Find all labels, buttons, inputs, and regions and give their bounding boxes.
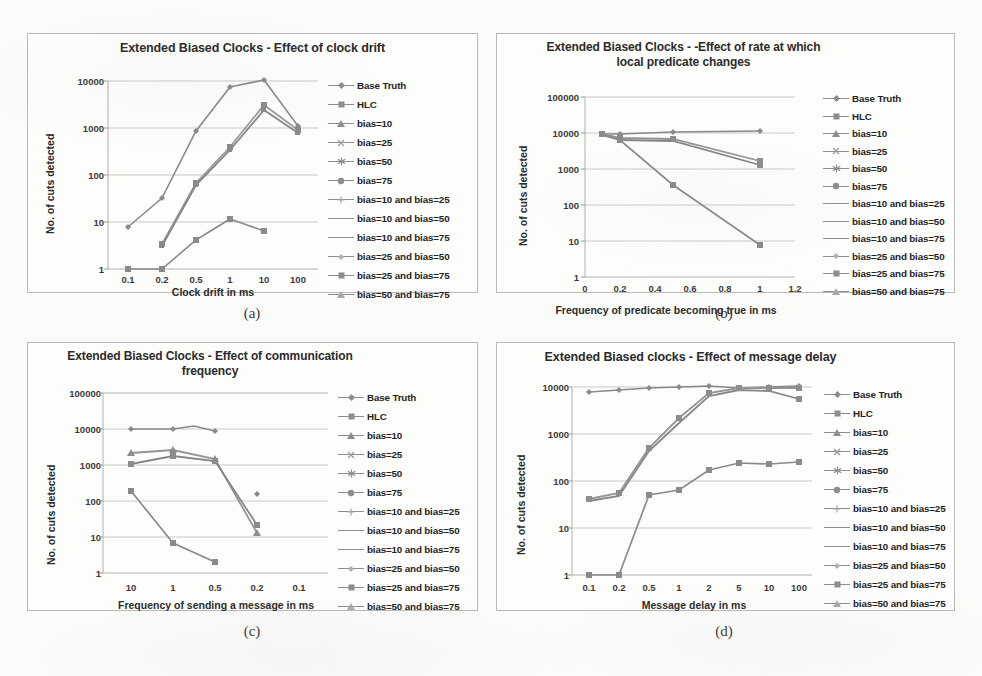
legend-item[interactable]: bias=10 — [824, 423, 945, 442]
legend-item[interactable]: bias=25 and bias=50 — [823, 248, 944, 266]
legend-item[interactable]: bias=10 — [823, 125, 944, 143]
legend-item[interactable]: HLC — [823, 108, 944, 126]
legend-item[interactable]: bias=10 and bias=75 — [328, 228, 449, 247]
legend-item[interactable]: HLC — [824, 404, 945, 423]
legend-item[interactable]: bias=10 and bias=25 — [823, 195, 944, 213]
legend-label: bias=25 and bias=75 — [853, 579, 945, 590]
legend-item[interactable]: bias=75 — [824, 480, 945, 499]
triangle-marker-icon — [824, 598, 850, 610]
x-axis-title-b: Frequency of predicate becoming true in … — [511, 304, 821, 316]
asterisk-marker-icon — [824, 465, 850, 477]
legend-item[interactable]: bias=25 and bias=75 — [328, 266, 449, 285]
legend-label: bias=25 — [853, 446, 888, 457]
triangle-marker-icon — [328, 118, 354, 130]
triangle-marker-icon — [328, 289, 354, 301]
diamond-small-marker-icon — [824, 560, 850, 572]
line-marker-icon — [823, 233, 849, 245]
legend-item[interactable]: Base Truth — [328, 76, 449, 95]
legend-label: bias=10 — [367, 430, 402, 441]
legend-item[interactable]: bias=50 and bias=75 — [338, 597, 459, 616]
legend-label: bias=10 and bias=25 — [357, 194, 449, 205]
legend-item[interactable]: bias=25 — [328, 133, 449, 152]
legend-item[interactable]: bias=10 and bias=25 — [328, 190, 449, 209]
diamond-small-marker-icon — [338, 563, 364, 575]
legend-item[interactable]: bias=75 — [328, 171, 449, 190]
legend-label: bias=50 and bias=75 — [853, 598, 945, 609]
legend-item[interactable]: HLC — [338, 407, 459, 426]
legend-item[interactable]: bias=10 and bias=50 — [328, 209, 449, 228]
legend-label: bias=10 and bias=25 — [852, 198, 944, 209]
triangle-marker-icon — [338, 601, 364, 613]
legend-item[interactable]: bias=25 and bias=75 — [823, 265, 944, 283]
legend-item[interactable]: bias=25 — [823, 143, 944, 161]
legend-item[interactable]: bias=10 and bias=50 — [338, 521, 459, 540]
legend-label: Base Truth — [853, 389, 902, 400]
legend-item[interactable]: bias=10 and bias=50 — [824, 518, 945, 537]
legend-label: bias=25 and bias=75 — [852, 268, 944, 279]
legend-item[interactable]: bias=50 and bias=75 — [823, 283, 944, 301]
legend-label: bias=10 and bias=75 — [853, 541, 945, 552]
square-marker-icon — [338, 582, 364, 594]
legend-item[interactable]: Base Truth — [823, 90, 944, 108]
legend-label: bias=10 — [852, 128, 887, 139]
asterisk-marker-icon — [328, 156, 354, 168]
legend-item[interactable]: bias=50 — [328, 152, 449, 171]
legend-item[interactable]: bias=10 and bias=50 — [823, 213, 944, 231]
diamond-marker-icon — [338, 392, 364, 404]
cross-marker-icon — [824, 446, 850, 458]
cross-marker-icon — [338, 449, 364, 461]
plus-marker-icon — [328, 194, 354, 206]
asterisk-marker-icon — [823, 163, 849, 175]
triangle-marker-icon — [823, 128, 849, 140]
circle-marker-icon — [824, 484, 850, 496]
legend-item[interactable]: Base Truth — [338, 388, 459, 407]
legend-item[interactable]: bias=10 — [338, 426, 459, 445]
legend-label: bias=50 — [367, 468, 402, 479]
legend-item[interactable]: bias=25 and bias=50 — [328, 247, 449, 266]
legend-item[interactable]: bias=10 and bias=75 — [824, 537, 945, 556]
legend-label: bias=25 and bias=50 — [367, 563, 459, 574]
circle-marker-icon — [328, 175, 354, 187]
legend-item[interactable]: bias=50 — [338, 464, 459, 483]
line-marker-icon — [338, 544, 364, 556]
legend-label: bias=25 — [367, 449, 402, 460]
legend-item[interactable]: bias=25 and bias=75 — [338, 578, 459, 597]
legend-item[interactable]: bias=25 — [338, 445, 459, 464]
legend-label: bias=10 — [357, 118, 392, 129]
line-marker-icon — [824, 522, 850, 534]
legend-item[interactable]: bias=50 and bias=75 — [328, 285, 449, 304]
subfigure-caption-b: (b) — [694, 305, 754, 322]
legend-label: HLC — [853, 408, 873, 419]
legend-item[interactable]: bias=25 and bias=50 — [338, 559, 459, 578]
legend-label: bias=10 and bias=75 — [852, 233, 944, 244]
legend-item[interactable]: bias=75 — [338, 483, 459, 502]
legend-item[interactable]: bias=25 and bias=75 — [824, 575, 945, 594]
triangle-marker-icon — [823, 285, 849, 297]
legend-item[interactable]: bias=75 — [823, 178, 944, 196]
legend-item[interactable]: bias=25 — [824, 442, 945, 461]
legend-item[interactable]: bias=10 and bias=75 — [823, 230, 944, 248]
legend-item[interactable]: bias=25 and bias=50 — [824, 556, 945, 575]
figure-panel-d: Extended Biased clocks - Effect of messa… — [496, 342, 955, 611]
legend-c: Base Truth HLC bias=10 bias=25 bias=50 b — [338, 388, 459, 616]
legend-item[interactable]: Base Truth — [824, 385, 945, 404]
cross-marker-icon — [328, 137, 354, 149]
plus-marker-icon — [824, 503, 850, 515]
legend-item[interactable]: bias=10 and bias=75 — [338, 540, 459, 559]
legend-item[interactable]: bias=50 — [823, 160, 944, 178]
legend-item[interactable]: bias=50 — [824, 461, 945, 480]
legend-label: bias=25 and bias=75 — [357, 270, 449, 281]
subfigure-caption-c: (c) — [222, 623, 282, 640]
legend-item[interactable]: bias=10 and bias=25 — [824, 499, 945, 518]
legend-item[interactable]: HLC — [328, 95, 449, 114]
legend-label: bias=25 and bias=50 — [357, 251, 449, 262]
subfigure-caption-a: (a) — [222, 305, 282, 322]
legend-item[interactable]: bias=50 and bias=75 — [824, 594, 945, 613]
legend-label: HLC — [367, 411, 387, 422]
line-marker-icon — [328, 213, 354, 225]
legend-label: bias=10 — [853, 427, 888, 438]
legend-d: Base Truth HLC bias=10 bias=25 bias=50 b — [824, 385, 945, 613]
legend-item[interactable]: bias=10 and bias=25 — [338, 502, 459, 521]
legend-item[interactable]: bias=10 — [328, 114, 449, 133]
square-marker-icon — [328, 99, 354, 111]
